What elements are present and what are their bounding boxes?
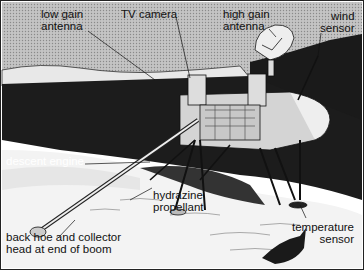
- label-high-gain-antenna: high gain antenna: [223, 8, 270, 32]
- label-low-gain-antenna: low gain antenna: [41, 8, 83, 32]
- label-back-hoe: back hoe and collector head at end of bo…: [6, 231, 121, 255]
- label-wind-sensor: wind sensor: [320, 10, 355, 34]
- viking-lander-diagram: low gain antenna TV camera high gain ant…: [0, 0, 364, 270]
- label-hydrazine-propellant: hydrazine propellant: [153, 189, 204, 213]
- label-descent-engine: descent engine: [6, 155, 84, 167]
- label-temperature-sensor: temperature sensor: [292, 221, 354, 245]
- label-tv-camera: TV camera: [121, 8, 177, 20]
